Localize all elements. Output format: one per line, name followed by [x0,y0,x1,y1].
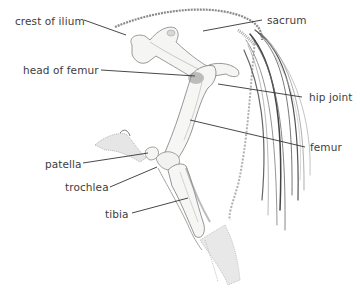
label-tibia: tibia [105,208,129,220]
tibia-bone [158,164,210,250]
label-femur: femur [310,141,342,153]
leader-trochlea [110,167,157,187]
label-hip-joint: hip joint [309,91,353,103]
label-trochlea: trochlea [65,181,109,193]
leader-crest-of-ilium [84,20,126,35]
label-head-of-femur: head of femur [23,64,99,76]
label-crest-of-ilium: crest of ilium [15,15,85,27]
tail [244,30,310,230]
leader-sacrum [203,20,262,31]
label-patella: patella [45,158,82,170]
illustration [0,0,362,290]
pelvis-bone [131,27,239,80]
label-sacrum: sacrum [267,14,306,26]
anatomy-diagram: crest of ilium sacrum head of femur hip … [0,0,362,290]
leader-tibia [132,198,188,213]
